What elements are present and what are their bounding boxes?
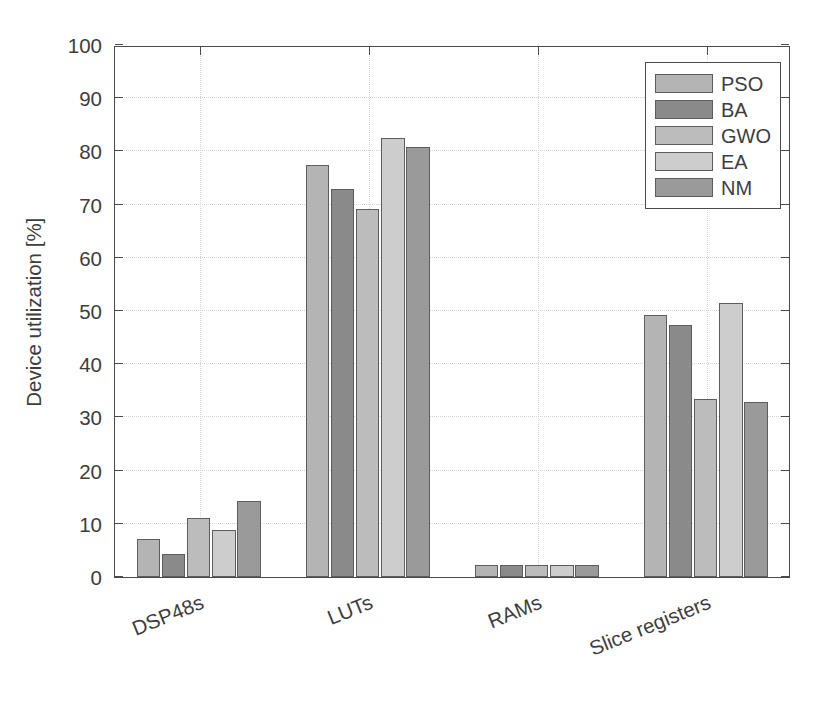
y-axis-title: Device utilization [%] (24, 217, 45, 406)
legend-label-nm: NM (721, 178, 752, 198)
legend-item[interactable]: BA (655, 98, 772, 121)
legend-label-gwo: GWO (721, 126, 771, 146)
legend-label-pso: PSO (721, 74, 763, 94)
legend-swatch-ea (655, 152, 713, 171)
legend-item[interactable]: PSO (655, 72, 772, 95)
legend-item[interactable]: NM (655, 176, 772, 199)
legend-swatch-gwo (655, 126, 713, 145)
legend-item[interactable]: EA (655, 150, 772, 173)
legend-label-ba: BA (721, 100, 748, 120)
legend-swatch-ba (655, 100, 713, 119)
legend: PSO BA GWO EA NM (645, 62, 781, 209)
x-tick-label: LUTs (238, 592, 375, 663)
legend-label-ea: EA (721, 152, 748, 172)
legend-item[interactable]: GWO (655, 124, 772, 147)
figure: 0102030405060708090100 DSP48sLUTsRAMsSli… (0, 0, 834, 706)
x-tick-label: Slice registers (576, 592, 713, 663)
x-tick-label: DSP48s (69, 592, 206, 663)
legend-swatch-nm (655, 178, 713, 197)
legend-swatch-pso (655, 74, 713, 93)
x-tick-label: RAMs (407, 592, 544, 663)
